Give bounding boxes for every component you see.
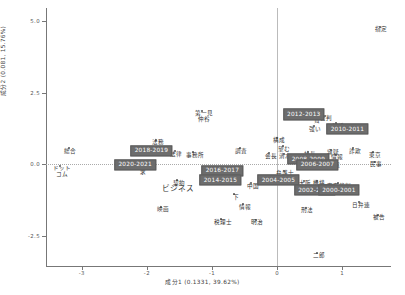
data-point-label: 総合 <box>64 149 76 155</box>
x-tick-label: 1 <box>340 270 344 276</box>
year-range-label: 2000-2001 <box>318 184 359 195</box>
data-point-label: 事務所 <box>186 153 204 159</box>
x-axis-title: 成分1 (0.1331, 39.62%) <box>0 277 405 286</box>
x-tick-label: -1 <box>209 270 215 276</box>
data-point-label: 調査 <box>235 149 247 155</box>
year-range-label: 2004-2005 <box>258 174 299 185</box>
data-point-label: 構成 <box>273 138 285 144</box>
chart-canvas: 成分1 (0.1331, 39.62%) 成分2 (0.081, 15.76%)… <box>0 0 405 295</box>
y-axis-title: 成分2 (0.081, 15.76%) <box>0 26 7 96</box>
data-point-label: 税理士 <box>214 220 232 226</box>
y-tick-label: 5.0 <box>14 18 40 24</box>
y-tick-label: 0.0 <box>14 161 40 167</box>
year-range-label: 2018-2019 <box>131 145 172 156</box>
data-point-label: 日弁連 <box>352 203 370 209</box>
y-tick-mark <box>42 21 46 22</box>
data-point-label: 明治 <box>251 220 263 226</box>
data-point-label: 東京 <box>369 153 381 159</box>
y-tick-label: 2.5 <box>14 90 40 96</box>
data-point-label: ビジネス <box>162 185 194 193</box>
y-tick-mark <box>42 93 46 94</box>
data-point-label: 第一見仲谷 <box>195 111 213 123</box>
year-range-label: 2012-2013 <box>283 109 324 120</box>
year-range-label: 2020-2021 <box>114 159 155 170</box>
x-tick-label: -3 <box>79 270 85 276</box>
data-point-label: 詐欺 <box>349 149 361 155</box>
data-point-label: 映画 <box>157 207 169 213</box>
data-point-label: 下 <box>233 195 239 201</box>
year-range-label: 2014-2015 <box>200 174 241 185</box>
y-tick-mark <box>42 236 46 237</box>
y-tick-label: -2.5 <box>14 233 40 239</box>
year-range-label: 2010-2011 <box>327 124 368 135</box>
data-point-label: 民事 <box>370 162 382 168</box>
data-point-label: 会長 <box>265 154 277 160</box>
data-point-label: 望む <box>278 147 290 153</box>
data-point-label: 法律 <box>170 152 182 158</box>
data-point-label: 情報 <box>239 205 251 211</box>
data-point-label: ドットコム <box>53 166 71 178</box>
x-axis-line <box>46 266 391 267</box>
data-point-label: 二郎 <box>313 253 325 259</box>
data-point-label: 刑法 <box>301 208 313 214</box>
x-tick-label: -2 <box>144 270 150 276</box>
plot-area <box>46 8 391 266</box>
data-point-label: 指定 <box>375 27 387 33</box>
data-point-label: 求 <box>140 170 146 176</box>
year-range-label: 2006-2007 <box>297 159 338 170</box>
y-tick-mark <box>42 164 46 165</box>
data-point-label: 強い <box>309 127 321 133</box>
data-point-label: 被告 <box>373 215 385 221</box>
x-tick-label: 0 <box>275 270 279 276</box>
